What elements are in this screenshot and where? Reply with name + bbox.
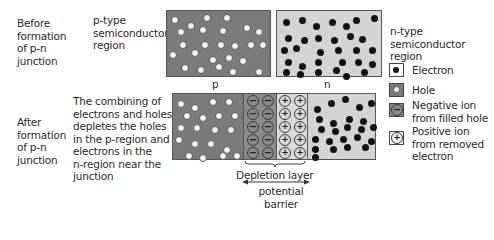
positive-ion-icon: + — [389, 131, 404, 145]
hole-icon — [389, 83, 404, 97]
legend-electron-label: Electron — [412, 64, 453, 77]
negative-ion-icon: − — [389, 103, 404, 117]
n-region-label: n-type semiconductor region — [390, 25, 465, 63]
legend-positive-ion-label: Positive ion from removed electron — [412, 125, 484, 163]
electron-icon — [389, 63, 404, 77]
potential-barrier-label: potential barrier — [256, 185, 306, 210]
legend-negative-ion-label: Negative ion from filled hole — [412, 99, 488, 124]
legend-hole-label: Hole — [412, 84, 435, 97]
depletion-layer-label: Depletion layer — [236, 169, 313, 182]
